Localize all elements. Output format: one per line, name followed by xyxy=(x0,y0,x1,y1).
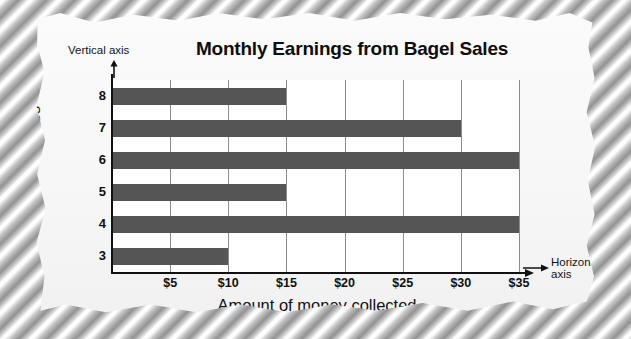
y-axis-tick-label: 5 xyxy=(84,184,106,199)
torn-paper-sheet: Monthly Earnings from Bagel Sales Vertic… xyxy=(32,10,598,320)
gridline-vertical xyxy=(228,80,229,272)
gridline-vertical xyxy=(170,80,171,272)
x-axis-tick-label: $35 xyxy=(497,276,541,290)
vertical-axis-annotation-label: Vertical axis xyxy=(68,44,129,56)
x-axis-tick-labels: $5$10$15$20$25$30$35 xyxy=(112,276,522,294)
x-axis-tick-label: $15 xyxy=(264,276,308,290)
gridline-vertical xyxy=(519,80,520,272)
gridline-vertical xyxy=(403,80,404,272)
y-axis-tick-labels: 876543 xyxy=(82,80,106,272)
bar xyxy=(112,88,286,105)
bar xyxy=(112,184,286,201)
x-axis-tick-label: $10 xyxy=(206,276,250,290)
bar xyxy=(112,216,519,233)
gridline-vertical xyxy=(286,80,287,272)
x-axis-tick-label: $5 xyxy=(148,276,192,290)
y-axis-line xyxy=(111,74,113,274)
chart-title: Monthly Earnings from Bagel Sales xyxy=(152,38,552,60)
y-axis-tick-label: 8 xyxy=(84,88,106,103)
bar-chart: Monthly Earnings from Bagel Sales Vertic… xyxy=(32,10,598,320)
bar xyxy=(112,248,228,265)
y-axis-tick-label: 4 xyxy=(84,216,106,231)
bar xyxy=(112,152,519,169)
gridline-vertical xyxy=(345,80,346,272)
gridline-vertical xyxy=(461,80,462,272)
x-axis-tick-label: $25 xyxy=(381,276,425,290)
bar xyxy=(112,120,461,137)
y-axis-tick-label: 6 xyxy=(84,152,106,167)
x-axis-tick-label: $30 xyxy=(439,276,483,290)
plot-area xyxy=(112,80,519,272)
horizontal-axis-annotation-line2: axis xyxy=(551,268,571,280)
x-axis-tick-label: $20 xyxy=(323,276,367,290)
y-axis-tick-label: 7 xyxy=(84,120,106,135)
x-axis-line xyxy=(111,272,525,274)
y-axis-tick-label: 3 xyxy=(84,248,106,263)
